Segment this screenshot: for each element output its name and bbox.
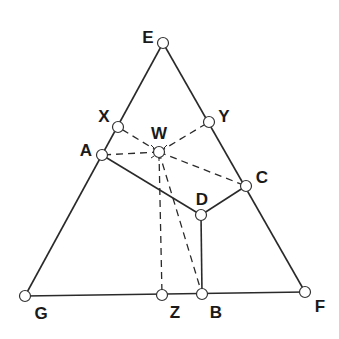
point-C	[241, 181, 252, 192]
label-Y: Y	[218, 108, 229, 125]
point-X	[113, 122, 124, 133]
label-A: A	[80, 142, 92, 159]
label-W: W	[151, 125, 167, 142]
point-A	[97, 150, 108, 161]
point-D	[196, 210, 207, 221]
edge-EG	[25, 43, 163, 296]
label-G: G	[34, 305, 47, 322]
point-E	[158, 38, 169, 49]
label-F: F	[315, 298, 325, 315]
w-tick-2	[151, 156, 154, 158]
point-Y	[204, 117, 215, 128]
point-W	[154, 147, 165, 158]
dashed-edge-WZ	[159, 152, 162, 295]
label-E: E	[142, 29, 153, 46]
point-Z	[157, 290, 168, 301]
point-G	[20, 291, 31, 302]
label-Z: Z	[170, 304, 180, 321]
diagram-canvas	[0, 0, 339, 339]
w-tick-0	[151, 145, 154, 148]
dashed-edge-WC	[159, 152, 246, 186]
dashed-edge-WA	[102, 152, 159, 155]
label-B: B	[210, 304, 222, 321]
edge-DB	[201, 215, 202, 294]
dashed-edges	[102, 122, 246, 295]
point-F	[300, 287, 311, 298]
dashed-edge-WB	[159, 152, 202, 294]
point-B	[197, 289, 208, 300]
w-tick-1	[164, 145, 167, 148]
label-C: C	[256, 169, 268, 186]
label-X: X	[98, 108, 109, 125]
geometry-diagram: E X Y W A C D G Z B F	[0, 0, 339, 339]
edge-AD	[102, 155, 201, 215]
edge-EF	[163, 43, 305, 292]
label-D: D	[196, 191, 208, 208]
